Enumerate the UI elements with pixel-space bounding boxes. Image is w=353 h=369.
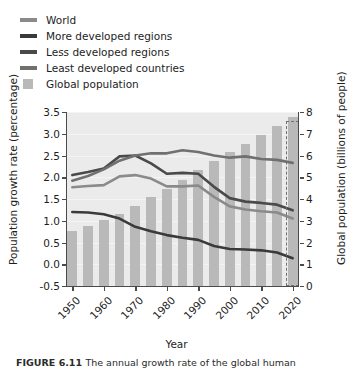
y-tick-label-right: 0: [306, 280, 326, 292]
legend-swatch-less-developed-regions: [20, 50, 37, 54]
line-series-group: [66, 112, 299, 286]
x-tick: [261, 287, 262, 291]
legend-label-global-population: Global population: [46, 79, 139, 90]
y-tick-label-left: 0.5: [16, 237, 60, 249]
line-least-developed-countries: [72, 150, 292, 180]
x-tick-label: 1960: [80, 294, 114, 328]
y-tick-left: [62, 134, 66, 135]
plot-area: [66, 112, 299, 286]
x-tick-label: 1980: [143, 294, 177, 328]
x-tick-label: 1950: [49, 294, 83, 328]
y-tick-label-left: 3.5: [16, 106, 60, 118]
y-axis-left-line: [66, 112, 67, 286]
y-tick-left: [62, 156, 66, 157]
y-tick-right: [300, 112, 304, 113]
x-tick: [104, 287, 105, 291]
y-tick-label-left: 2.0: [16, 171, 60, 183]
legend-label-least-developed-countries: Least developed countries: [46, 63, 185, 74]
y-tick-label-right: 7: [306, 128, 326, 140]
y-tick-right: [300, 264, 304, 265]
y-tick-right: [300, 243, 304, 244]
legend-swatch-least-developed-countries: [20, 66, 37, 70]
legend-item-least-developed-countries[interactable]: Least developed countries: [20, 60, 280, 76]
y-tick-right: [300, 177, 304, 178]
legend-label-less-developed-regions: Less developed regions: [46, 47, 169, 58]
x-tick-label: 2010: [238, 294, 272, 328]
y-axis-left-title: Population growth rate (percentage): [7, 145, 19, 265]
y-tick-label-right: 5: [306, 171, 326, 183]
y-tick-right: [300, 134, 304, 135]
chart-legend: World More developed regions Less develo…: [20, 12, 280, 92]
legend-swatch-global-population: [23, 79, 33, 89]
y-tick-right: [300, 156, 304, 157]
line-more-developed-regions: [72, 212, 292, 258]
legend-item-less-developed-regions[interactable]: Less developed regions: [20, 44, 280, 60]
y-tick-label-left: 0.0: [16, 258, 60, 270]
x-tick: [135, 287, 136, 291]
x-tick-label: 2000: [206, 294, 240, 328]
y-tick-left: [62, 177, 66, 178]
y-tick-left: [62, 264, 66, 265]
y-tick-label-left: 1.5: [16, 193, 60, 205]
x-tick: [167, 287, 168, 291]
x-axis-title: Year: [0, 338, 353, 350]
legend-label-world: World: [46, 15, 76, 26]
y-tick-label-right: 2: [306, 237, 326, 249]
x-tick: [293, 287, 294, 291]
legend-item-world[interactable]: World: [20, 12, 280, 28]
y-tick-left: [62, 221, 66, 222]
y-tick-label-right: 4: [306, 193, 326, 205]
y-tick-left: [62, 199, 66, 200]
x-tick-label: 2020: [269, 294, 303, 328]
x-tick: [72, 287, 73, 291]
y-tick-label-right: 3: [306, 215, 326, 227]
y-tick-right: [300, 199, 304, 200]
y-tick-left: [62, 112, 66, 113]
legend-label-more-developed-regions: More developed regions: [46, 31, 172, 42]
legend-item-global-population[interactable]: Global population: [20, 76, 280, 92]
y-tick-label-left: 1.0: [16, 215, 60, 227]
x-axis-line: [66, 286, 299, 287]
x-tick-label: 1970: [112, 294, 146, 328]
y-axis-right-title: Global population (billions of people): [335, 145, 347, 265]
y-tick-right: [300, 286, 304, 287]
y-tick-label-left: -0.5: [16, 280, 60, 292]
x-tick: [230, 287, 231, 291]
y-tick-label-left: 2.5: [16, 150, 60, 162]
y-tick-left: [62, 286, 66, 287]
y-tick-label-right: 8: [306, 106, 326, 118]
y-tick-label-right: 1: [306, 258, 326, 270]
line-world: [72, 175, 292, 219]
y-tick-left: [62, 243, 66, 244]
x-tick-label: 1990: [175, 294, 209, 328]
legend-item-more-developed-regions[interactable]: More developed regions: [20, 28, 280, 44]
figure-caption: FIGURE 6.11 The annual growth rate of th…: [16, 357, 346, 369]
legend-swatch-more-developed-regions: [20, 34, 37, 38]
x-tick: [198, 287, 199, 291]
legend-swatch-world: [20, 18, 37, 22]
y-tick-label-left: 3.0: [16, 128, 60, 140]
y-tick-right: [300, 221, 304, 222]
y-tick-label-right: 6: [306, 150, 326, 162]
